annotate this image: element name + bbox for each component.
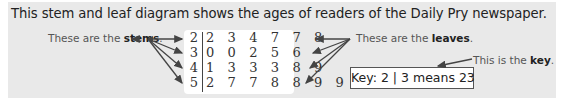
leaves-cell: 0 0 2 5 6 bbox=[206, 45, 305, 60]
leaves-annotation: These are the leaves. bbox=[356, 32, 473, 44]
stem-leaf-table: 2 2 3 4 7 7 8 3 0 0 2 5 6 4 1 3 3 3 8 9 … bbox=[184, 30, 294, 94]
stem-cell: 2 bbox=[188, 30, 200, 45]
stems-annotation: These are the stems. bbox=[48, 32, 163, 44]
stem-cell: 3 bbox=[188, 45, 200, 60]
stems-annotation-suffix: . bbox=[159, 32, 162, 44]
key-annotation-bold: key bbox=[530, 54, 551, 66]
key-box: Key: 2 | 3 means 23 bbox=[350, 67, 474, 89]
stems-annotation-prefix: These are the bbox=[48, 32, 124, 44]
leaves-cell: 2 3 4 7 7 8 bbox=[206, 30, 327, 45]
key-annotation-prefix: This is the bbox=[473, 54, 530, 66]
leaves-annotation-bold: leaves bbox=[432, 32, 470, 44]
leaves-annotation-suffix: . bbox=[470, 32, 473, 44]
stem-cell: 5 bbox=[188, 75, 200, 90]
leaves-cell: 2 7 7 8 8 9 9 bbox=[206, 75, 349, 90]
key-annotation-suffix: . bbox=[551, 54, 554, 66]
stem-cell: 4 bbox=[188, 60, 200, 75]
key-annotation: This is the key. bbox=[473, 54, 554, 66]
stem-leaf-divider bbox=[202, 32, 203, 92]
stems-annotation-bold: stems bbox=[124, 32, 160, 44]
leaves-annotation-prefix: These are the bbox=[356, 32, 432, 44]
leaves-cell: 1 3 3 3 8 9 bbox=[206, 60, 327, 75]
intro-text: This stem and leaf diagram shows the age… bbox=[11, 6, 547, 21]
